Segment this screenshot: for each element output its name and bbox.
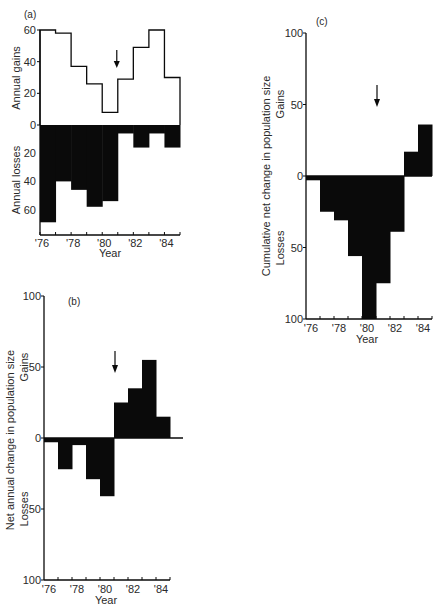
loss-bar [133,125,149,148]
x-tick-label: '84 [154,583,168,595]
panel-c: (c) Cumulative net change in population … [260,16,433,345]
loss-bar [164,125,180,148]
gain-bar [404,152,419,176]
panel-b-ylabel: Net annual change in population size [4,350,16,530]
x-tick-label: '78 [332,322,346,334]
gain-bar [114,403,129,439]
loss-bar [40,125,56,222]
panel-a-label: (a) [24,9,36,20]
loss-bar [334,176,349,220]
y-tick-label: 40 [24,175,36,187]
y-tick-label: 100 [23,290,41,302]
x-tick-label: '76 [304,322,318,334]
y-tick-label: 100 [23,574,41,586]
gain-bar [142,360,157,438]
y-tick-label: 0 [297,170,303,182]
panel-b-xlabel: Year [95,594,118,606]
y-tick-label: 100 [285,313,303,325]
x-tick-label: '80 [360,322,374,334]
panel-c-ylabel-losses: Losses [274,230,286,265]
panel-b: (b) Net annual change in population size… [4,290,183,606]
loss-bar [348,176,363,256]
loss-bar [320,176,335,212]
loss-bar [100,438,115,496]
loss-bar [390,176,405,232]
loss-bar [376,176,391,283]
x-tick-label: '82 [128,237,142,249]
y-tick-label: 20 [24,87,36,99]
arrow-head-icon [112,365,118,373]
figure: (a) Annual gains Annual losses Year 0204… [0,0,439,607]
x-tick-label: '82 [388,322,402,334]
loss-bar [118,125,134,133]
y-tick-label: 0 [30,119,36,131]
y-tick-label: 50 [291,242,303,254]
loss-bar [362,176,377,319]
loss-bar [87,125,103,207]
arrow-head-icon [374,99,380,107]
y-tick-label: 60 [24,204,36,216]
gain-bar [128,388,143,438]
gain-bar [418,125,433,176]
x-tick-label: '80 [97,237,111,249]
loss-bar [72,438,87,445]
x-tick-label: '82 [126,583,140,595]
x-tick-label: '78 [70,583,84,595]
x-tick-label: '76 [35,237,49,249]
panel-c-ylabel: Cumulative net change in population size [260,76,272,277]
y-tick-label: 50 [29,361,41,373]
x-tick-label: '84 [416,322,430,334]
panel-a: (a) Annual gains Annual losses Year 0204… [10,9,181,259]
arrow-head-icon [114,61,120,68]
panel-c-ylabel-gains: Gains [274,89,286,118]
x-tick-label: '78 [66,237,80,249]
y-tick-label: 40 [24,56,36,68]
y-tick-label: 0 [35,432,41,444]
loss-bar [149,125,165,133]
x-tick-label: '84 [159,237,173,249]
y-tick-label: 20 [24,147,36,159]
panel-c-xlabel: Year [356,333,379,345]
y-tick-label: 100 [285,27,303,39]
panel-a-lower-ylabel: Annual losses [10,145,22,214]
panel-c-label: (c) [316,16,328,27]
y-tick-label: 50 [29,503,41,515]
y-tick-label: 50 [291,99,303,111]
loss-bar [58,438,73,469]
x-tick-label: '80 [98,583,112,595]
x-tick-label: '76 [42,583,56,595]
gain-bar [156,417,171,438]
gains-outline [40,30,180,125]
loss-bar [102,125,118,201]
loss-bar [86,438,101,479]
loss-bar [56,125,72,181]
y-tick-label: 60 [24,24,36,36]
panel-a-upper-ylabel: Annual gains [10,46,22,110]
panel-b-label: (b) [68,296,80,307]
loss-bar [71,125,87,190]
